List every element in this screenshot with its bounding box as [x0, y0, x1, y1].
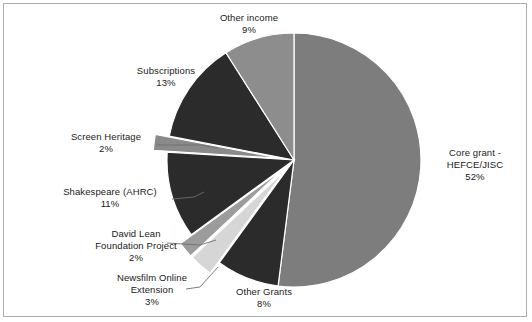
pie-label-other-grants-name: Other Grants: [214, 286, 314, 298]
pie-label-subscriptions: Subscriptions 13%: [108, 65, 224, 89]
pie-label-shakespeare: Shakespeare (AHRC) 11%: [44, 186, 176, 210]
pie-label-screen-heritage-name: Screen Heritage: [51, 131, 161, 143]
pie-label-subscriptions-name: Subscriptions: [108, 65, 224, 77]
pie-label-other-grants-pct: 8%: [214, 298, 314, 310]
pie-chart-plot-area: Other income 9% Subscriptions 13% Screen…: [4, 4, 528, 318]
pie-label-david-lean-line1: David Lean: [66, 228, 206, 240]
pie-label-david-lean-pct: 2%: [66, 252, 206, 264]
pie-label-core-grant-pct: 52%: [422, 171, 528, 183]
pie-label-newsfilm-line1: Newsfilm Online: [96, 272, 208, 284]
pie-label-other-income-pct: 9%: [189, 24, 309, 36]
pie-label-other-income-name: Other income: [189, 12, 309, 24]
chart-frame: Other income 9% Subscriptions 13% Screen…: [3, 3, 527, 317]
pie-label-subscriptions-pct: 13%: [108, 77, 224, 89]
pie-label-other-grants: Other Grants 8%: [214, 286, 314, 310]
pie-label-david-lean-line2: Foundation Project: [66, 240, 206, 252]
pie-label-david-lean: David Lean Foundation Project 2%: [66, 228, 206, 264]
pie-label-newsfilm-line2: Extension: [96, 284, 208, 296]
pie-slice[interactable]: [278, 33, 421, 287]
pie-label-shakespeare-pct: 11%: [44, 198, 176, 210]
pie-label-shakespeare-name: Shakespeare (AHRC): [44, 186, 176, 198]
pie-label-newsfilm-pct: 3%: [96, 296, 208, 308]
pie-label-core-grant-line2: HEFCE/JISC: [422, 159, 528, 171]
pie-label-core-grant-line1: Core grant -: [422, 147, 528, 159]
pie-label-screen-heritage: Screen Heritage 2%: [51, 131, 161, 155]
pie-label-core-grant: Core grant - HEFCE/JISC 52%: [422, 147, 528, 183]
pie-label-newsfilm: Newsfilm Online Extension 3%: [96, 272, 208, 308]
pie-label-screen-heritage-pct: 2%: [51, 143, 161, 155]
pie-label-other-income: Other income 9%: [189, 12, 309, 36]
